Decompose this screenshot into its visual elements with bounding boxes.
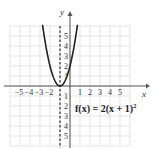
parabola-chart: −5−4−3−2123451234512345 x y f(x) = 2(x +… (0, 0, 152, 149)
tick-label: 1 (64, 92, 68, 101)
tick-label: 5 (64, 132, 68, 141)
tick-label: −3 (35, 88, 44, 97)
tick-label: −4 (25, 88, 34, 97)
tick-label: 1 (64, 72, 68, 81)
equation-exponent: 2 (133, 102, 137, 110)
equation-label: f(x) = 2(x + 1)2 (75, 102, 137, 115)
y-axis-arrow-icon (68, 11, 73, 16)
tick-label: 2 (64, 102, 68, 111)
equation-main: f(x) = 2(x + 1) (75, 103, 133, 115)
x-axis-arrow-icon (146, 84, 150, 89)
tick-label: 4 (64, 42, 68, 51)
tick-label: 3 (98, 88, 102, 97)
tick-label: 4 (64, 122, 68, 131)
x-axis-label: x (141, 89, 146, 99)
tick-label: 3 (64, 52, 68, 61)
tick-label: 3 (64, 112, 68, 121)
tick-label: 2 (88, 88, 92, 97)
tick-label: 4 (108, 88, 112, 97)
y-axis-label: y (59, 7, 64, 17)
tick-label: −5 (15, 88, 24, 97)
tick-label: 5 (64, 32, 68, 41)
tick-label: 5 (118, 88, 122, 97)
tick-label: 1 (78, 88, 82, 97)
tick-label: 2 (64, 62, 68, 71)
tick-label: −2 (45, 88, 54, 97)
